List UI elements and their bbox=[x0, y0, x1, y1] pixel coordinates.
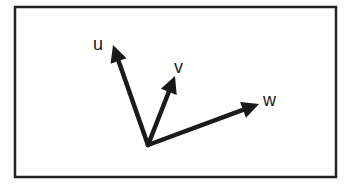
vector-label-u: u bbox=[93, 34, 103, 54]
vector-diagram: u v w bbox=[0, 0, 346, 194]
vector-label-w: w bbox=[262, 90, 277, 110]
vector-label-v: v bbox=[174, 57, 183, 77]
